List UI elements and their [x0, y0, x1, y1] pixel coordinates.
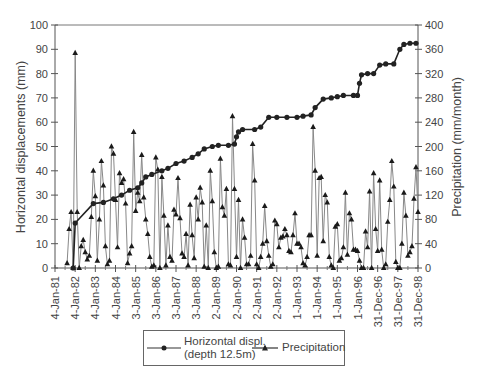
precipitation-point	[389, 158, 395, 163]
x-tick-label: 31-Dec-97	[392, 276, 404, 327]
precipitation-point	[76, 265, 82, 270]
displacement-point	[202, 146, 207, 151]
precipitation-point	[220, 204, 226, 209]
right-y-tick-label: 320	[425, 68, 443, 80]
displacement-point	[252, 127, 257, 132]
displacement-point	[321, 97, 326, 102]
displacement-point	[397, 47, 402, 52]
x-tick-label: 2-Jan-91	[251, 276, 263, 319]
precipitation-point	[157, 265, 163, 270]
displacement-point	[139, 180, 144, 185]
left-y-tick-label: 20	[36, 213, 48, 225]
precipitation-point	[101, 182, 107, 187]
right-y-tick-label: 40	[425, 238, 437, 250]
right-y-tick-label: 200	[425, 141, 443, 153]
left-y-tick-label: 80	[36, 68, 48, 80]
precipitation-point	[99, 158, 105, 163]
precipitation-point	[147, 254, 153, 259]
precipitation-point	[230, 113, 236, 118]
precipitation-point	[266, 253, 272, 258]
displacement-point	[377, 62, 382, 67]
displacement-point	[91, 201, 96, 206]
x-tick-label: 1-Jan-95	[331, 276, 343, 319]
precipitation-point	[345, 251, 351, 256]
left-y-tick-label: 30	[36, 189, 48, 201]
displacement-point	[149, 172, 154, 177]
precipitation-point	[109, 143, 115, 148]
precipitation-point	[343, 189, 349, 194]
precipitation-point	[379, 247, 385, 252]
precipitation-point	[80, 237, 86, 242]
displacement-point	[101, 200, 106, 205]
precipitation-series	[64, 50, 421, 270]
right-y-axis-title: Precipitation (mm/month)	[450, 77, 464, 217]
precipitation-point	[365, 244, 371, 249]
displacement-point	[210, 144, 215, 149]
precipitation-point	[129, 243, 135, 248]
precipitation-point	[82, 249, 88, 254]
precipitation-point	[165, 222, 171, 227]
precipitation-point	[159, 174, 165, 179]
precipitation-point	[262, 203, 268, 208]
precipitation-point	[310, 124, 316, 129]
x-tick-label: 4-Jan-84	[110, 276, 122, 319]
precipitation-point	[393, 259, 399, 264]
displacement-point	[341, 93, 346, 98]
triangle-marker-line-icon	[252, 342, 278, 354]
displacement-point	[357, 81, 362, 86]
precipitation-point	[103, 243, 109, 248]
precipitation-point	[276, 244, 282, 249]
precipitation-point	[234, 254, 240, 259]
displacement-point	[355, 93, 360, 98]
precipitation-point	[121, 176, 127, 181]
left-y-tick-label: 90	[36, 43, 48, 55]
precipitation-point	[383, 261, 389, 266]
precipitation-point	[326, 254, 332, 259]
x-axis-ticks: 4-Jan-814-Jan-824-Jan-834-Jan-843-Jan-85…	[49, 265, 424, 327]
precipitation-point	[347, 210, 353, 215]
x-tick-label: 1-Jan-93	[291, 276, 303, 319]
precipitation-point	[91, 168, 97, 173]
precipitation-point	[185, 262, 191, 267]
precipitation-point	[282, 226, 288, 231]
precipitation-point	[125, 260, 131, 265]
precipitation-point	[133, 208, 139, 213]
precipitation-point	[203, 222, 209, 227]
left-y-tick-label: 10	[36, 238, 48, 250]
displacement-point	[266, 115, 271, 120]
precipitation-point	[143, 216, 149, 221]
left-y-tick-label: 100	[30, 19, 48, 31]
precipitation-point	[222, 213, 228, 218]
displacement-point	[165, 166, 170, 171]
precipitation-point	[401, 189, 407, 194]
precipitation-point	[385, 219, 391, 224]
precipitation-point	[238, 265, 244, 270]
precipitation-point	[304, 254, 310, 259]
precipitation-point	[212, 249, 218, 254]
precipitation-point	[74, 209, 80, 214]
precipitation-point	[163, 262, 169, 267]
displacement-point	[309, 112, 314, 117]
precipitation-point	[409, 243, 415, 248]
x-tick-label: 1-Jan-94	[311, 276, 323, 319]
displacement-point	[407, 41, 412, 46]
precipitation-point	[242, 234, 248, 239]
chart-legend: Horizontal displ. (depth 12.5m) Precipit…	[143, 330, 345, 366]
circle-marker-line-icon	[147, 342, 181, 354]
x-tick-label: 4-Jan-81	[49, 276, 61, 319]
precipitation-point	[292, 210, 298, 215]
precipitation-point	[264, 238, 270, 243]
right-y-ticks: 04080120160200240280320360400	[415, 19, 443, 274]
precipitation-point	[373, 226, 379, 231]
displacement-point	[401, 42, 406, 47]
precipitation-point	[403, 213, 409, 218]
precipitation-point	[153, 154, 159, 159]
precipitation-point	[189, 232, 195, 237]
displacement-point	[300, 114, 305, 119]
precipitation-point	[68, 209, 74, 214]
right-y-tick-label: 400	[425, 19, 443, 31]
precipitation-point	[117, 170, 123, 175]
right-y-tick-label: 160	[425, 165, 443, 177]
displacement-point	[274, 115, 279, 120]
precipitation-point	[399, 241, 405, 246]
